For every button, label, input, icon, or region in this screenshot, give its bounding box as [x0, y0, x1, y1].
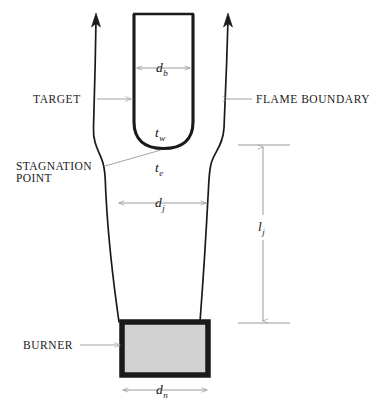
- symbol-t-e: te: [155, 160, 163, 178]
- dimension-l-j: lj: [238, 145, 290, 323]
- burner-block: [122, 322, 208, 375]
- symbol-t-w: tw: [155, 125, 165, 143]
- callout-burner: BURNER: [23, 339, 120, 351]
- burner-rect: [122, 322, 208, 375]
- callout-burner-label: BURNER: [23, 339, 73, 351]
- dimension-d-n: dn: [123, 382, 207, 400]
- symbol-d-n: dn: [156, 382, 168, 400]
- callout-stagnation-point-label-line1: STAGNATION: [16, 160, 92, 172]
- flame-boundary-right: [200, 13, 233, 322]
- callout-stagnation-point-label-line2: POINT: [16, 172, 52, 184]
- symbol-d-j: dj: [155, 195, 165, 213]
- callout-target-label: TARGET: [33, 93, 81, 105]
- flame-jet-diagram: db tw te dj lj: [0, 0, 380, 415]
- callout-stagnation-point: STAGNATION POINT: [16, 150, 161, 184]
- callout-flame-boundary-label: FLAME BOUNDARY: [256, 93, 370, 105]
- diagram-canvas: db tw te dj lj: [0, 0, 380, 415]
- callout-stagnation-point-leader: [105, 150, 161, 166]
- flame-boundary-left: [92, 13, 120, 322]
- callout-target: TARGET: [33, 93, 131, 105]
- symbol-l-j: lj: [258, 219, 265, 237]
- callout-flame-boundary: FLAME BOUNDARY: [228, 93, 370, 105]
- dimension-d-b: db: [137, 60, 190, 78]
- dimension-d-j: dj: [119, 195, 206, 213]
- symbol-d-b: db: [156, 60, 168, 78]
- target-body: [133, 14, 194, 149]
